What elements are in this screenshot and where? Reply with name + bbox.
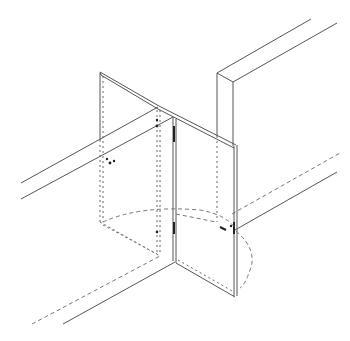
diagram-canvas: Bi-fold door pivot installation (isometr… <box>0 0 350 341</box>
left-track-rails <box>21 107 173 199</box>
door-assembly-drawing <box>0 0 350 341</box>
floor-guide <box>32 214 216 324</box>
pivot-hardware <box>106 119 232 234</box>
swing-arc <box>103 209 252 288</box>
right-door-panel <box>158 106 237 297</box>
hinge-post <box>173 117 176 263</box>
right-track-rails <box>232 153 340 230</box>
left-door-panel <box>100 72 160 256</box>
wall-jamb <box>217 19 337 146</box>
